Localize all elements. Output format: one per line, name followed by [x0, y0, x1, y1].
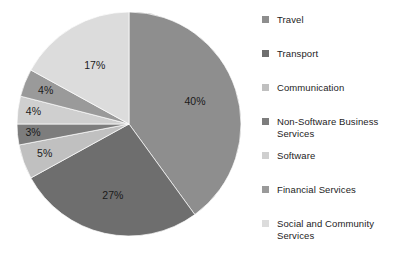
legend-swatch-icon	[262, 16, 269, 23]
legend-swatch-icon	[262, 118, 269, 125]
legend-swatch-icon	[262, 186, 269, 193]
legend-swatch-icon	[262, 152, 269, 159]
legend-swatch-icon	[262, 84, 269, 91]
legend-item[interactable]: Financial Services	[262, 184, 396, 196]
pie-slice-label: 40%	[185, 95, 206, 107]
legend-item[interactable]: Transport	[262, 48, 396, 60]
legend-item[interactable]: Communication	[262, 82, 396, 94]
legend-item[interactable]: Social and Community Services	[262, 218, 396, 241]
legend-item[interactable]: Non-Software Business Services	[262, 116, 396, 139]
legend-item-label: Communication	[277, 82, 344, 94]
pie-slice-label: 5%	[37, 147, 52, 159]
legend-item-label: Financial Services	[277, 184, 356, 196]
pie-svg: 40%27%5%3%4%4%17%	[0, 0, 256, 260]
pie-chart-figure: 40%27%5%3%4%4%17% TravelTransportCommuni…	[0, 0, 396, 260]
pie-slice-label: 4%	[38, 84, 53, 96]
legend-item[interactable]: Travel	[262, 14, 396, 26]
pie-plot-area: 40%27%5%3%4%4%17%	[0, 0, 256, 260]
legend-item-label: Travel	[277, 14, 304, 26]
chart-legend: TravelTransportCommunicationNon-Software…	[262, 0, 396, 260]
legend-item-label: Transport	[277, 48, 318, 60]
pie-slice-label: 3%	[26, 126, 41, 138]
legend-swatch-icon	[262, 50, 269, 57]
pie-slice-label: 4%	[26, 105, 41, 117]
legend-item-label: Non-Software Business Services	[277, 116, 378, 139]
pie-slice-label: 27%	[102, 189, 123, 201]
pie-slice-label: 17%	[84, 59, 105, 71]
legend-item-label: Software	[277, 150, 315, 162]
legend-item-label: Social and Community Services	[277, 218, 374, 241]
legend-swatch-icon	[262, 220, 269, 227]
legend-item[interactable]: Software	[262, 150, 396, 162]
pie-slice-group	[17, 12, 241, 236]
